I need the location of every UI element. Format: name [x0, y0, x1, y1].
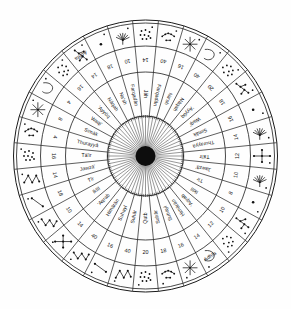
- star-link: [33, 110, 38, 115]
- star-dot: [228, 242, 230, 244]
- star-dot: [140, 276, 142, 278]
- star-dot-single-icon: [252, 108, 255, 111]
- degree-number-label: 10: [218, 205, 226, 213]
- degree-number-label: 14: [76, 220, 84, 228]
- scatter-dot: [138, 284, 140, 286]
- star-zigzag-chain-icon: [23, 175, 40, 184]
- scatter-dot: [81, 44, 83, 46]
- star-link: [190, 44, 195, 49]
- star-name-label: 'Ayyūq: [180, 105, 195, 120]
- star-link: [244, 90, 248, 93]
- degree-number-label: 16: [227, 115, 235, 123]
- star-dot: [232, 241, 234, 243]
- star-name-label: 'Aqrab: [96, 192, 111, 207]
- star-asterisk-eight-ray-icon: [183, 37, 197, 51]
- star-dot: [63, 71, 65, 73]
- star-spider-radial-icon: [253, 128, 266, 139]
- scatter-dot: [52, 241, 54, 243]
- degree-number-label: 18: [160, 247, 167, 254]
- star-arc-three-icon: [161, 270, 175, 279]
- star-dot: [25, 159, 27, 161]
- star-hook-path: [204, 49, 214, 60]
- star-link: [165, 33, 168, 34]
- degree-number-label: 40: [192, 72, 200, 80]
- star-link: [165, 271, 168, 272]
- star-asterisk-eight-ray-icon: [183, 261, 197, 275]
- degree-number-label: 16: [76, 84, 84, 92]
- star-compass-figure: JāhFarqadānNa'shNāqah'AyyūqWaqi'SimākThu…: [0, 0, 291, 309]
- degree-number-label: 16: [51, 153, 57, 159]
- star-dot: [100, 43, 103, 46]
- star-dot: [141, 30, 143, 32]
- scatter-dot: [21, 173, 23, 175]
- scatter-dot: [198, 39, 200, 41]
- star-dot: [226, 65, 228, 67]
- star-dot: [54, 240, 56, 242]
- degree-number-label: 10: [65, 205, 73, 213]
- star-link: [54, 221, 57, 226]
- star-dot: [145, 271, 147, 273]
- star-dot: [142, 38, 144, 40]
- star-dot: [227, 75, 229, 77]
- star-dot: [58, 72, 60, 74]
- star-dot: [57, 67, 59, 69]
- degree-number-label: 14: [192, 232, 200, 240]
- star-dot: [231, 74, 233, 76]
- degree-number-label: 10: [232, 171, 239, 178]
- star-dot: [150, 37, 152, 39]
- degree-number-label: 8: [227, 190, 234, 195]
- star-name-label: Jawzā': [195, 164, 212, 173]
- star-name-label: Thurayyā: [77, 138, 100, 148]
- star-dot: [142, 280, 144, 282]
- star-dot: [62, 246, 64, 248]
- star-zigzag-chain-icon: [115, 270, 132, 279]
- degree-number-label: 40: [160, 58, 167, 65]
- star-dot: [141, 272, 143, 274]
- rhumb-divider: [175, 181, 248, 242]
- scatter-dot: [237, 69, 239, 71]
- degree-number-label: 12: [234, 153, 240, 159]
- degree-number-label: 12: [206, 220, 214, 228]
- star-link: [162, 34, 165, 36]
- star-dot: [62, 240, 64, 242]
- star-hook-curve-icon: [204, 49, 214, 60]
- star-name-label: Jawzā': [79, 163, 96, 172]
- star-cross-anchor-icon: [54, 234, 72, 248]
- star-link: [38, 110, 43, 115]
- star-link: [171, 34, 174, 36]
- star-link: [185, 263, 190, 268]
- star-dot: [31, 156, 33, 158]
- star-name-label: Tīr: [195, 176, 203, 184]
- star-dot: [227, 246, 229, 248]
- star-dot: [144, 34, 146, 36]
- star-link: [82, 254, 86, 260]
- star-link: [240, 87, 244, 90]
- star-name-label: Suhār: [129, 209, 138, 224]
- scatter-dot: [162, 283, 164, 285]
- star-cluster-scatter-icon: [222, 65, 234, 77]
- star-line-pair-icon: [31, 197, 44, 207]
- star-cluster-scatter-icon: [57, 65, 69, 77]
- star-dot: [145, 29, 147, 31]
- scatter-dot: [32, 99, 34, 101]
- star-link: [46, 220, 50, 225]
- star-dot: [23, 155, 25, 157]
- star-dot: [149, 273, 151, 275]
- star-link: [42, 219, 46, 225]
- scatter-dot: [252, 89, 254, 91]
- star-link: [33, 105, 38, 110]
- star-name-label: Tā'ir: [82, 152, 92, 158]
- degree-number-label: 4: [66, 100, 73, 106]
- scatter-dot: [24, 123, 26, 125]
- star-cluster-pleiades-icon: [23, 150, 35, 161]
- star-line-pair-icon: [94, 263, 107, 273]
- star-dot: [27, 155, 29, 157]
- scatter-dot: [208, 266, 210, 268]
- degree-number-label: 14: [232, 134, 239, 141]
- scatter-dot: [244, 233, 246, 235]
- scatter-dot: [228, 251, 230, 253]
- star-dot: [269, 155, 271, 157]
- star-link: [185, 268, 190, 273]
- star-link: [168, 33, 171, 34]
- star-dot: [150, 279, 152, 281]
